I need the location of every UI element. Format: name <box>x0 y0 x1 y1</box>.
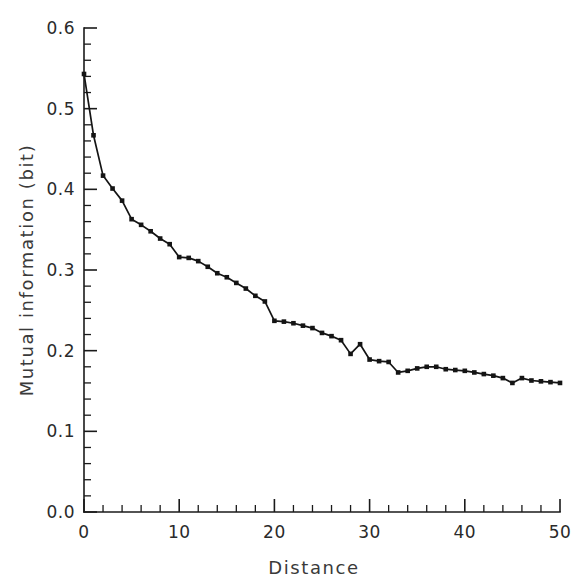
data-point-marker <box>301 323 306 328</box>
data-point-marker <box>348 352 353 357</box>
data-point-marker <box>329 334 334 339</box>
data-point-marker <box>82 72 87 77</box>
data-point-marker <box>358 342 363 347</box>
y-tick-label: 0.4 <box>46 179 75 199</box>
data-point-marker <box>529 378 534 383</box>
data-point-marker <box>491 373 496 378</box>
data-point-marker <box>548 380 553 385</box>
data-point-marker <box>272 319 277 324</box>
data-point-marker <box>139 223 144 228</box>
data-point-marker <box>177 255 182 260</box>
data-point-marker <box>405 369 410 374</box>
data-point-marker <box>415 366 420 371</box>
x-tick-label: 0 <box>78 522 89 542</box>
data-polyline <box>84 74 560 383</box>
data-point-marker <box>320 331 325 336</box>
y-tick-label: 0.1 <box>46 421 75 441</box>
data-point-marker <box>167 242 172 247</box>
data-point-marker <box>196 259 201 264</box>
line-chart: 0.00.10.20.30.40.50.6 01020304050 Distan… <box>0 0 585 578</box>
data-point-marker <box>472 370 477 375</box>
y-tick-label: 0.3 <box>46 260 75 280</box>
data-point-marker <box>101 173 106 178</box>
data-point-marker <box>510 381 515 386</box>
x-axis: 01020304050 <box>78 499 571 542</box>
y-tick-label: 0.2 <box>46 341 75 361</box>
data-point-marker <box>234 281 239 286</box>
data-point-marker <box>110 186 115 191</box>
data-point-marker <box>482 372 487 377</box>
data-point-marker <box>367 357 372 362</box>
x-tick-label: 30 <box>358 522 381 542</box>
data-point-marker <box>129 217 134 222</box>
data-point-marker <box>91 133 96 138</box>
data-point-marker <box>339 338 344 343</box>
y-tick-label: 0.6 <box>46 18 75 38</box>
data-point-marker <box>263 299 268 304</box>
x-tick-label: 50 <box>549 522 572 542</box>
x-axis-title: Distance <box>268 557 360 578</box>
y-tick-label: 0.5 <box>46 99 75 119</box>
data-point-marker <box>396 370 401 375</box>
data-point-marker <box>215 271 220 276</box>
data-point-marker <box>434 365 439 370</box>
data-point-marker <box>501 376 506 381</box>
data-point-marker <box>120 198 125 203</box>
data-point-marker <box>186 256 191 261</box>
chart-figure: 0.00.10.20.30.40.50.6 01020304050 Distan… <box>0 0 585 578</box>
data-point-marker <box>463 369 468 374</box>
data-point-marker <box>225 275 230 280</box>
data-point-marker <box>291 321 296 326</box>
x-tick-label: 40 <box>453 522 476 542</box>
data-point-marker <box>282 319 287 324</box>
data-point-marker <box>539 379 544 384</box>
data-series-mutual-information <box>82 72 563 386</box>
data-point-marker <box>424 365 429 370</box>
x-tick-label: 20 <box>263 522 286 542</box>
data-point-marker <box>443 367 448 372</box>
data-point-marker <box>453 368 458 373</box>
y-axis-title: Mutual information (bit) <box>16 144 37 397</box>
x-tick-label: 10 <box>168 522 191 542</box>
data-point-marker <box>148 229 153 234</box>
y-tick-label: 0.0 <box>46 502 75 522</box>
data-point-marker <box>520 376 525 381</box>
data-point-marker <box>377 359 382 364</box>
data-point-marker <box>310 326 315 331</box>
data-point-marker <box>558 381 563 386</box>
y-axis: 0.00.10.20.30.40.50.6 <box>46 18 97 522</box>
data-point-marker <box>205 264 210 269</box>
data-point-marker <box>158 236 163 241</box>
data-point-marker <box>244 286 249 291</box>
data-point-marker <box>386 360 391 365</box>
data-point-marker <box>253 294 258 299</box>
